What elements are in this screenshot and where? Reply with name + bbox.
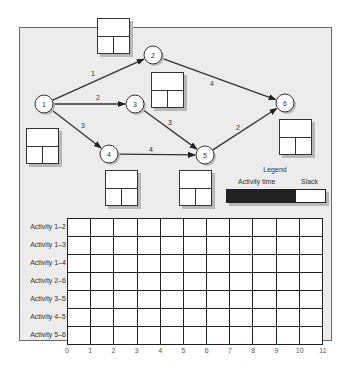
node-label: 6 [283,100,287,107]
event-box-top-cell [280,120,311,138]
event-box-bottom-left-cell [106,188,122,205]
gantt-cell [299,255,322,273]
gantt-cell [137,327,160,345]
gantt-cell [160,327,183,345]
gantt-cell [160,273,183,291]
gantt-row-label: Activity 2–6 [22,272,66,290]
gantt-cell [137,273,160,291]
event-box-bottom-right-cell [296,137,311,154]
event-box-node-2 [97,18,130,54]
legend-title: Legend [255,166,295,173]
edge-4-5 [118,154,195,155]
gantt-cell [207,327,230,345]
gantt-cell [253,309,276,327]
gantt-cell [137,237,160,255]
gantt-cell [68,219,91,237]
gantt-row [68,327,323,345]
gantt-cell [230,309,253,327]
node-label: 1 [42,101,46,108]
gantt-cell [160,291,183,309]
gantt-row [68,237,323,255]
edge-label-1-3: 2 [96,94,100,101]
gantt-row-label: Activity 3–5 [22,290,66,308]
gantt-row [68,309,323,327]
gantt-cell [299,309,322,327]
gantt-cell [299,273,322,291]
event-box-top-cell [27,129,58,147]
gantt-cell [207,309,230,327]
gantt-cell [253,327,276,345]
gantt-cell [91,219,114,237]
gantt-row [68,273,323,291]
gantt-cell [299,291,322,309]
gantt-cell [276,237,299,255]
event-box-top-cell [152,73,183,91]
gantt-cell [253,237,276,255]
gantt-cell [68,273,91,291]
gantt-cell [68,291,91,309]
gantt-cell [253,273,276,291]
legend-activity-swatch [227,190,296,202]
gantt-cell [207,237,230,255]
gantt-cell [207,219,230,237]
gantt-cell [91,291,114,309]
x-axis-tick: 1 [84,347,96,354]
x-axis-tick: 11 [317,347,329,354]
gantt-cell [230,273,253,291]
gantt-cell [137,255,160,273]
gantt-cell [276,273,299,291]
gantt-row [68,255,323,273]
x-axis-tick: 2 [108,347,120,354]
legend-slack-label: Slack [301,178,318,185]
event-box-bottom-left-cell [180,188,196,205]
gantt-cell [253,255,276,273]
gantt-cell [230,255,253,273]
node-4: 4 [100,145,120,165]
gantt-cell [207,273,230,291]
node-6: 6 [276,94,296,114]
gantt-grid [67,218,323,345]
edge-label-5-6: 2 [236,124,240,131]
edge-label-3-5: 3 [168,119,172,126]
gantt-cell [230,237,253,255]
gantt-cell [160,309,183,327]
gantt-cell [230,219,253,237]
x-axis-tick: 0 [61,347,73,354]
gantt-cell [114,327,137,345]
edge-5-6 [213,108,277,150]
gantt-row-label: Activity 1–3 [22,236,66,254]
event-box-node-4 [105,170,138,206]
edge-label-1-4: 3 [81,122,85,129]
gantt-cell [299,327,322,345]
gantt-cell [253,219,276,237]
x-axis-tick: 7 [224,347,236,354]
legend-slack-swatch [296,190,325,202]
x-axis-tick: 5 [177,347,189,354]
event-box-bottom-left-cell [27,146,43,163]
node-label: 2 [151,52,155,59]
gantt-cell [276,219,299,237]
event-box-bottom-right-cell [114,36,129,53]
gantt-cell [207,255,230,273]
node-1: 1 [35,95,55,115]
gantt-cell [160,237,183,255]
gantt-cell [91,273,114,291]
gantt-cell [230,291,253,309]
gantt-cell [68,327,91,345]
event-box-top-cell [180,171,211,189]
gantt-cell [183,291,206,309]
gantt-cell [137,309,160,327]
x-axis-tick: 4 [154,347,166,354]
node-label: 5 [203,152,207,159]
event-box-bottom-right-cell [43,146,58,163]
gantt-cell [114,255,137,273]
gantt-cell [114,309,137,327]
gantt-cell [68,255,91,273]
gantt-cell [137,219,160,237]
x-axis-tick: 10 [294,347,306,354]
gantt-cell [183,327,206,345]
gantt-cell [183,255,206,273]
event-box-bottom-left-cell [152,90,168,107]
gantt-cell [276,327,299,345]
gantt-row-label: Activity 1–2 [22,218,66,236]
